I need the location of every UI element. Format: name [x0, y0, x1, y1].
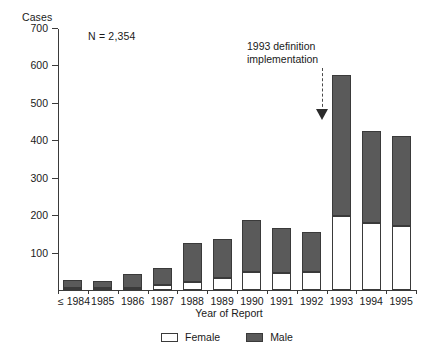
bar-segment-male	[362, 131, 381, 223]
bar-segment-male	[63, 280, 82, 288]
bar-segment-female	[272, 273, 291, 290]
x-axis-tick	[386, 290, 387, 294]
bar-stack	[392, 28, 411, 290]
bar-segment-female	[302, 272, 321, 290]
bar-segment-male	[272, 228, 291, 274]
x-axis-label: 1995	[386, 295, 416, 307]
bar-stack	[153, 28, 172, 290]
x-axis-label: 1991	[267, 295, 297, 307]
definition-note-line1: 1993 definition	[247, 40, 318, 53]
x-axis-tick	[267, 290, 268, 294]
y-axis-label: 500	[4, 98, 48, 108]
bar-segment-female	[123, 288, 142, 290]
bar-segment-female	[63, 288, 82, 290]
bar-group	[58, 28, 416, 290]
bar-stack	[93, 28, 112, 290]
x-axis-tick	[327, 290, 328, 294]
x-axis-tick	[118, 290, 119, 294]
bar-segment-male	[332, 75, 351, 216]
legend-item-male: Male	[246, 331, 293, 343]
bar-stack	[242, 28, 261, 290]
y-axis-label: 100	[4, 248, 48, 258]
legend-label-male: Male	[270, 331, 293, 343]
bar-stack	[123, 28, 142, 290]
x-axis-tick	[148, 290, 149, 294]
x-axis-title: Year of Report	[0, 307, 434, 319]
bar-segment-male	[183, 243, 202, 282]
definition-note-dashed-line	[322, 68, 323, 112]
x-axis-label: 1985	[88, 295, 118, 307]
bar-stack	[302, 28, 321, 290]
legend-label-female: Female	[185, 331, 220, 343]
bar-segment-female	[183, 282, 202, 290]
bar-segment-female	[153, 285, 172, 290]
bar-segment-female	[213, 278, 232, 290]
y-axis-label: 300	[4, 173, 48, 183]
x-axis-label: 1986	[118, 295, 148, 307]
definition-note-text: 1993 definition implementation	[247, 40, 318, 65]
bar-segment-female	[362, 223, 381, 290]
bar-stack	[272, 28, 291, 290]
bar-segment-male	[153, 268, 172, 286]
x-axis-tick	[88, 290, 89, 294]
bar-segment-male	[242, 220, 261, 272]
bar-segment-female	[332, 216, 351, 290]
x-axis-tick	[356, 290, 357, 294]
bar-stack	[213, 28, 232, 290]
x-axis-label: 1994	[356, 295, 386, 307]
y-axis-label: 700	[4, 23, 48, 33]
x-axis-tick	[177, 290, 178, 294]
x-axis-label: 1989	[207, 295, 237, 307]
y-axis-label: 600	[4, 60, 48, 70]
definition-note-line2: implementation	[247, 53, 318, 66]
bar-segment-male	[123, 274, 142, 287]
x-axis-tick	[297, 290, 298, 294]
definition-note-arrow-icon	[316, 109, 328, 120]
legend-swatch-female-icon	[161, 333, 178, 342]
y-axis-label: 400	[4, 135, 48, 145]
x-axis-tick	[237, 290, 238, 294]
x-axis-tick	[207, 290, 208, 294]
legend-item-female: Female	[161, 331, 220, 343]
bar-stack	[183, 28, 202, 290]
legend: Female Male	[0, 331, 434, 343]
x-axis-label: 1990	[237, 295, 267, 307]
x-axis-label: 1992	[297, 295, 327, 307]
bar-stack	[332, 28, 351, 290]
bar-stack	[362, 28, 381, 290]
bar-segment-male	[302, 232, 321, 272]
x-axis-label: 1988	[177, 295, 207, 307]
bar-segment-female	[93, 288, 112, 290]
bar-segment-male	[93, 281, 112, 288]
chart-container: Cases N = 2,354 100200300400500600700 ≤ …	[0, 0, 434, 356]
x-axis-label: ≤ 1984	[58, 295, 88, 307]
bar-segment-male	[213, 239, 232, 277]
bar-stack	[63, 28, 82, 290]
bar-segment-female	[392, 226, 411, 290]
bar-segment-male	[392, 136, 411, 226]
x-axis-label: 1987	[148, 295, 178, 307]
x-axis-tick	[416, 290, 417, 294]
x-axis-tick	[58, 290, 59, 294]
legend-swatch-male-icon	[246, 333, 263, 342]
x-axis-label: 1993	[327, 295, 357, 307]
y-axis-label: 200	[4, 210, 48, 220]
bar-segment-female	[242, 272, 261, 290]
